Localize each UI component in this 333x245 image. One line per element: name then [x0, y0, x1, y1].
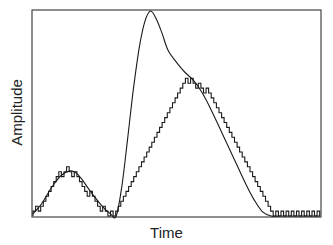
- plot-frame: [32, 10, 321, 217]
- y-axis-label: Amplitude: [8, 63, 25, 163]
- x-axis-label: Time: [0, 224, 333, 241]
- chart-canvas: [0, 0, 333, 245]
- analog-signal-curve: [33, 11, 320, 218]
- staircase-approximation-line: [33, 78, 320, 216]
